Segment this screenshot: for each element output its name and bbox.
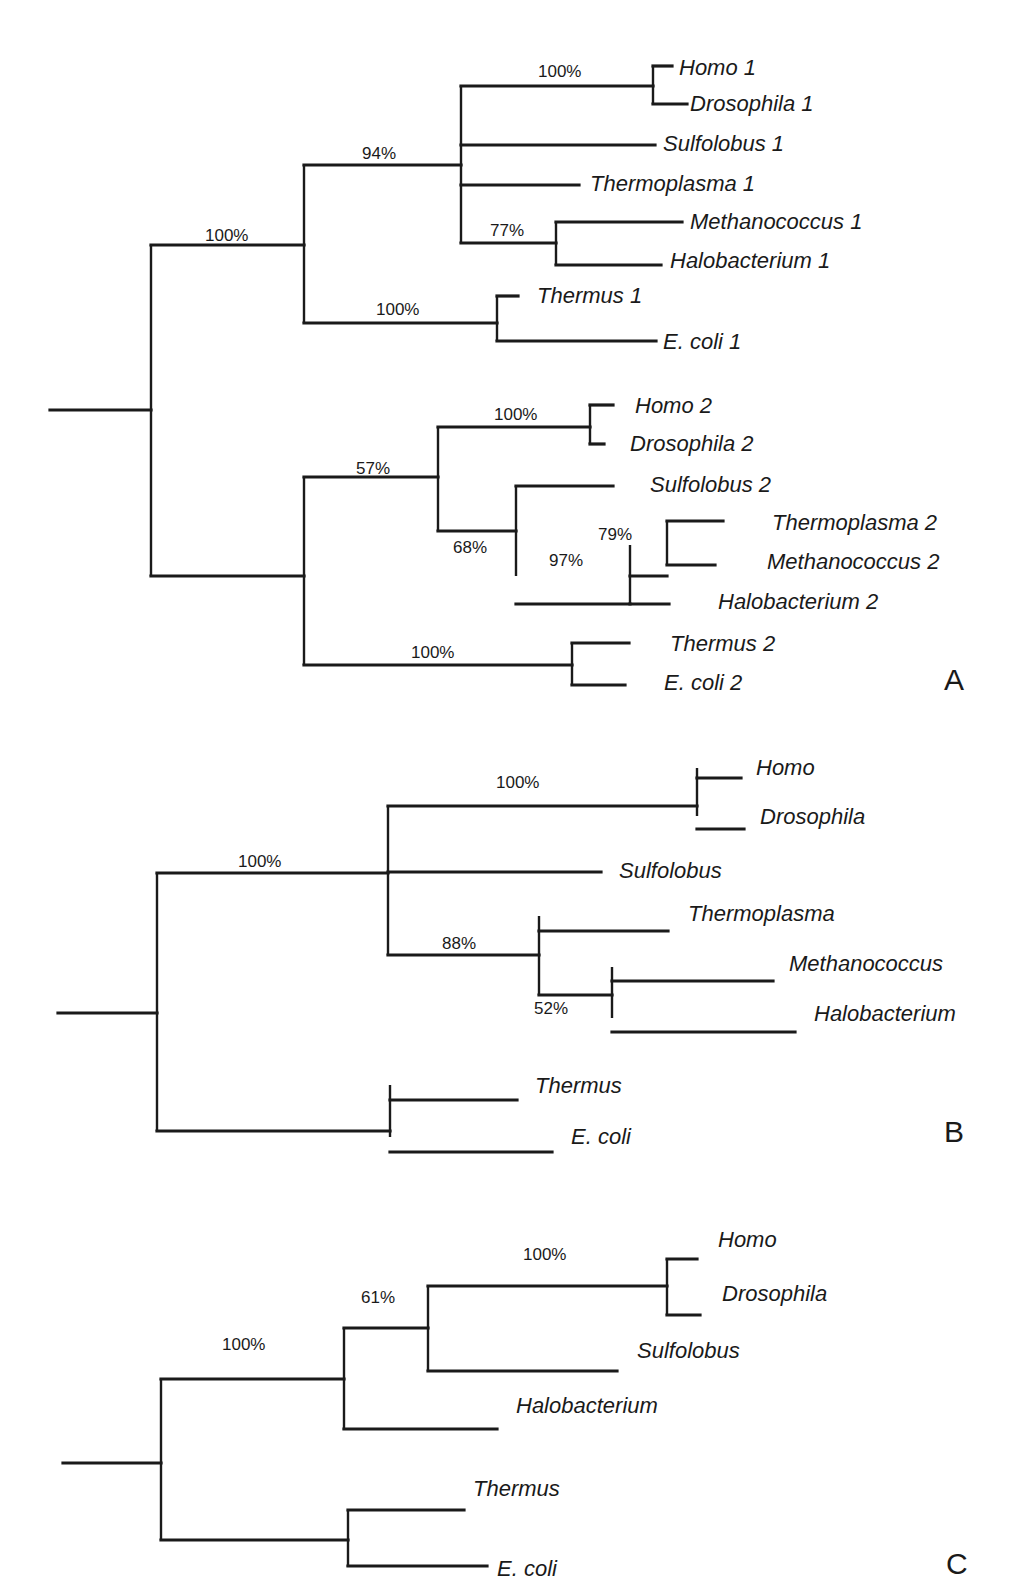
taxon-label: Drosophila — [722, 1281, 827, 1306]
taxon-label: Thermus — [473, 1476, 560, 1501]
taxon-label: E. coli — [571, 1124, 632, 1149]
taxon-label: Sulfolobus 1 — [663, 131, 784, 156]
taxon-label: Thermus 2 — [670, 631, 775, 656]
bootstrap-support-label: 100% — [523, 1245, 566, 1264]
taxon-label: Methanococcus 2 — [767, 549, 939, 574]
taxon-label: Halobacterium 1 — [670, 248, 830, 273]
bootstrap-support-label: 100% — [376, 300, 419, 319]
phylogenetic-tree-figure: Homo 1Drosophila 1Sulfolobus 1Thermoplas… — [0, 0, 1034, 1591]
taxon-label: Thermoplasma 2 — [772, 510, 937, 535]
taxon-label: Methanococcus 1 — [690, 209, 862, 234]
panel-letter: B — [944, 1115, 964, 1148]
taxon-label: Sulfolobus 2 — [650, 472, 771, 497]
taxon-label: Drosophila 2 — [630, 431, 754, 456]
taxon-label: Thermus — [535, 1073, 622, 1098]
bootstrap-support-label: 100% — [238, 852, 281, 871]
taxon-label: Homo 2 — [635, 393, 712, 418]
taxon-label: E. coli 2 — [664, 670, 742, 695]
tree-panel-a: Homo 1Drosophila 1Sulfolobus 1Thermoplas… — [50, 55, 964, 696]
taxon-label: Homo — [718, 1227, 777, 1252]
panel-letter: A — [944, 663, 964, 696]
bootstrap-support-label: 100% — [496, 773, 539, 792]
taxon-label: Drosophila — [760, 804, 865, 829]
taxon-label: Sulfolobus — [619, 858, 722, 883]
taxon-label: Thermoplasma 1 — [590, 171, 755, 196]
bootstrap-support-label: 97% — [549, 551, 583, 570]
taxon-label: E. coli 1 — [663, 329, 741, 354]
bootstrap-support-label: 77% — [490, 221, 524, 240]
bootstrap-support-label: 100% — [205, 226, 248, 245]
bootstrap-support-label: 88% — [442, 934, 476, 953]
bootstrap-support-label: 61% — [361, 1288, 395, 1307]
panel-letter: C — [946, 1547, 968, 1580]
bootstrap-support-label: 100% — [411, 643, 454, 662]
bootstrap-support-label: 94% — [362, 144, 396, 163]
taxon-label: Halobacterium — [516, 1393, 658, 1418]
bootstrap-support-label: 100% — [538, 62, 581, 81]
taxon-label: Thermus 1 — [537, 283, 642, 308]
taxon-label: Methanococcus — [789, 951, 943, 976]
taxon-label: Halobacterium 2 — [718, 589, 878, 614]
taxon-label: Homo — [756, 755, 815, 780]
tree-panel-c: HomoDrosophilaSulfolobusHalobacteriumThe… — [63, 1227, 968, 1581]
taxon-label: Homo 1 — [679, 55, 756, 80]
taxon-label: Halobacterium — [814, 1001, 956, 1026]
taxon-label: E. coli — [497, 1556, 558, 1581]
bootstrap-support-label: 68% — [453, 538, 487, 557]
bootstrap-support-label: 57% — [356, 459, 390, 478]
bootstrap-support-label: 79% — [598, 525, 632, 544]
taxon-label: Drosophila 1 — [690, 91, 814, 116]
bootstrap-support-label: 100% — [494, 405, 537, 424]
tree-panel-b: HomoDrosophilaSulfolobusThermoplasmaMeth… — [58, 755, 964, 1152]
taxon-label: Thermoplasma — [688, 901, 835, 926]
bootstrap-support-label: 100% — [222, 1335, 265, 1354]
taxon-label: Sulfolobus — [637, 1338, 740, 1363]
bootstrap-support-label: 52% — [534, 999, 568, 1018]
